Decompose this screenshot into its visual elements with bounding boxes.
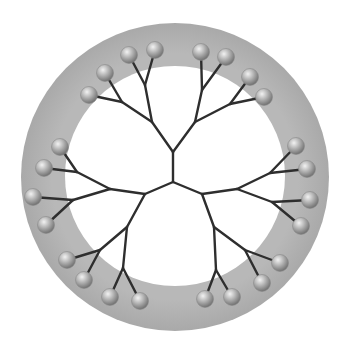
terminal-group-sphere-icon [59, 252, 76, 269]
terminal-group-sphere-icon [242, 69, 259, 86]
terminal-group-sphere-icon [224, 289, 241, 306]
terminal-group-sphere-icon [25, 189, 42, 206]
terminal-group-sphere-icon [81, 87, 98, 104]
terminal-group-sphere-icon [76, 272, 93, 289]
terminal-group-sphere-icon [288, 138, 305, 155]
terminal-group-sphere-icon [132, 293, 149, 310]
terminal-group-sphere-icon [193, 44, 210, 61]
terminal-group-sphere-icon [299, 161, 316, 178]
terminal-group-sphere-icon [272, 255, 289, 272]
terminal-group-sphere-icon [302, 192, 319, 209]
terminal-group-sphere-icon [36, 160, 53, 177]
dendrimer-diagram [0, 0, 341, 348]
terminal-group-sphere-icon [38, 217, 55, 234]
terminal-group-sphere-icon [256, 89, 273, 106]
terminal-group-sphere-icon [147, 42, 164, 59]
terminal-group-sphere-icon [218, 49, 235, 66]
terminal-group-sphere-icon [52, 139, 69, 156]
terminal-group-sphere-icon [293, 218, 310, 235]
terminal-group-sphere-icon [102, 289, 119, 306]
terminal-group-sphere-icon [121, 47, 138, 64]
terminal-group-sphere-icon [97, 65, 114, 82]
terminal-group-sphere-icon [254, 275, 271, 292]
terminal-group-sphere-icon [197, 291, 214, 308]
